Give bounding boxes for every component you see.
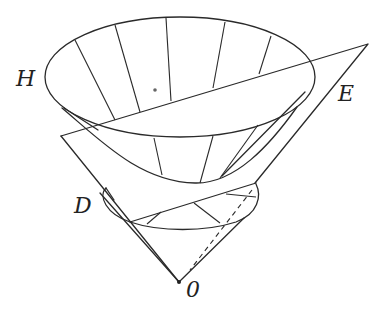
cone-plane-diagram: H E D 0	[0, 0, 382, 309]
label-H: H	[15, 66, 36, 91]
vertex-point	[177, 280, 181, 284]
right-generator-upper	[222, 92, 305, 176]
upper-rim-ellipse	[45, 17, 315, 137]
middle-rulings	[154, 125, 258, 183]
plane-top-edges	[61, 44, 368, 183]
label-E: E	[337, 81, 354, 106]
label-D: D	[73, 193, 92, 218]
hidden-generator-dashed	[190, 190, 252, 270]
plane-lower-line	[130, 183, 256, 222]
center-point	[153, 88, 157, 92]
label-O: 0	[186, 277, 200, 302]
lower-rulings	[147, 194, 256, 224]
upper-rulings	[75, 18, 271, 120]
section-curve	[62, 107, 297, 183]
left-generator-lower	[100, 193, 179, 282]
